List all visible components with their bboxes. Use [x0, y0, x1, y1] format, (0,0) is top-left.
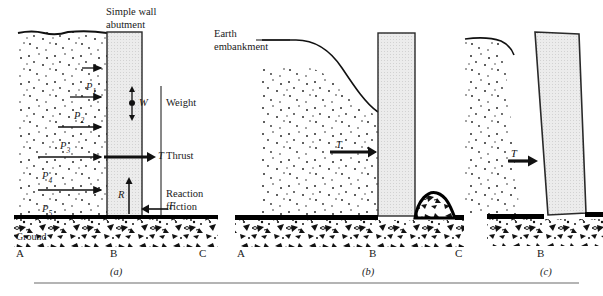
point-label-b1: B	[110, 247, 117, 259]
point-label-b2: B	[369, 247, 376, 259]
thrust-arrowhead-c	[528, 156, 538, 167]
wall-abutment-tilted-c	[535, 32, 586, 215]
soil-embankment-b	[262, 66, 378, 216]
soil-heave-bulge-b	[415, 192, 455, 218]
ground-label-a: Ground	[16, 231, 47, 242]
panel-c	[465, 32, 603, 246]
foundation-rubble-c	[487, 219, 603, 246]
thrust-symbol-b: T	[336, 139, 342, 151]
weight-label-a: Weight	[166, 97, 196, 109]
point-label-b3: B	[537, 247, 544, 259]
thrust-symbol-c: T	[511, 148, 517, 160]
wall-abutment-b	[378, 33, 415, 216]
pressure-subscript-p3: 3	[66, 146, 70, 155]
foundation-rubble-b	[235, 220, 464, 247]
reaction-label-line1: Reaction	[166, 188, 203, 200]
weight-point-a	[129, 100, 135, 106]
thrust-label-a: Thrust	[166, 150, 193, 162]
wall-abutment-a	[107, 32, 142, 216]
pressure-label-p5: P5	[26, 180, 52, 236]
panel-b	[235, 33, 464, 247]
pressure-subscript-p5: 5	[48, 209, 52, 218]
ground-line-b-left	[235, 215, 378, 220]
point-label-a1: A	[16, 247, 24, 259]
point-label-c1: C	[199, 247, 206, 259]
point-label-a2: A	[237, 247, 245, 259]
panel-a-caption: (a)	[110, 266, 122, 278]
reaction-symbol-a: R	[118, 189, 124, 201]
ground-line-c-right	[585, 212, 603, 217]
ground-line-c-left	[487, 214, 544, 219]
panel-c-caption: (c)	[540, 266, 552, 278]
point-label-c2: C	[455, 247, 462, 259]
panel-a-title-line2: abutment	[106, 19, 145, 31]
panel-b-caption: (b)	[362, 266, 374, 278]
pressure-subscript-p2: 2	[80, 116, 84, 125]
weight-symbol-a: W	[139, 97, 148, 109]
thrust-arrowhead-a	[147, 152, 156, 162]
panel-a-title-line1: Simple wall	[106, 6, 156, 18]
pressure-subscript-p1: 1	[92, 87, 96, 96]
soil-backfill-c	[465, 40, 520, 216]
panel-b-title-line2: embankment	[214, 41, 268, 53]
panel-b-title-line1: Earth	[214, 28, 237, 40]
reaction-label-line2: friction	[166, 201, 197, 213]
ground-line-b-right	[455, 215, 464, 220]
thrust-symbol-a: T	[158, 150, 164, 162]
figure-retaining-wall: Simple wall abutment P1 P2 P3 P4 P5 W We…	[0, 0, 603, 296]
